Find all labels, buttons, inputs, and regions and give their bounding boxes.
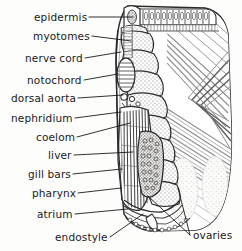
leader-line xyxy=(84,74,118,80)
label-liver: liver xyxy=(48,149,72,161)
label-nephridium: nephridium xyxy=(11,112,73,124)
label-gill-bars: gill bars xyxy=(28,168,71,180)
label-epidermis: epidermis xyxy=(34,11,87,23)
leader-line xyxy=(75,112,121,118)
label-endostyle: endostyle xyxy=(55,231,108,243)
nerve-cord-column xyxy=(124,26,132,58)
label-myotomes: myotomes xyxy=(33,30,90,42)
label-coelom: coelom xyxy=(36,131,75,143)
label-nerve-cord: nerve cord xyxy=(25,52,83,64)
leader-line xyxy=(75,209,128,214)
label-ovaries: ovaries xyxy=(193,229,232,241)
liver-diverticulum xyxy=(138,131,164,197)
dorsal-fin-ray-boxes xyxy=(138,9,219,31)
label-dorsal-aorta: dorsal aorta xyxy=(11,92,76,104)
label-notochord: notochord xyxy=(27,74,82,86)
label-atrium: atrium xyxy=(37,208,73,220)
label-pharynx: pharynx xyxy=(32,187,76,199)
leader-line xyxy=(78,188,121,193)
leader-line xyxy=(73,169,122,174)
